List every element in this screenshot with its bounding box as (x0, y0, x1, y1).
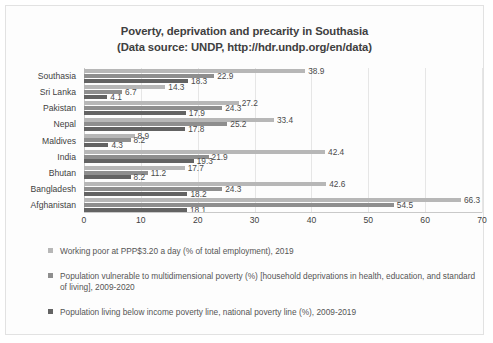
bar-row: 33.4 (84, 118, 482, 122)
bar-group: 14.36.74.1 (84, 84, 482, 100)
bar-row: 27.2 (84, 101, 482, 105)
legend-label: Population living below income poverty l… (60, 307, 356, 317)
bar[interactable] (84, 143, 108, 147)
category-label-india: India (57, 152, 76, 162)
bar[interactable] (84, 192, 187, 196)
bar-row: 24.3 (84, 106, 482, 110)
bar-row: 42.4 (84, 150, 482, 154)
bar-row: 18.2 (84, 192, 482, 196)
x-tick-label: 0 (82, 215, 87, 225)
bar[interactable] (84, 203, 394, 207)
category-label-bhutan: Bhutan (49, 168, 76, 178)
bar-row: 22.9 (84, 74, 482, 78)
bar[interactable] (84, 69, 305, 73)
bar[interactable] (84, 138, 131, 142)
legend-label: Population vulnerable to multidimensiona… (60, 271, 475, 293)
bar-row: 6.7 (84, 90, 482, 94)
bar-row: 8.2 (84, 138, 482, 142)
bar[interactable] (84, 159, 194, 163)
bar-row: 4.3 (84, 143, 482, 147)
bar-group: 42.421.919.3 (84, 149, 482, 165)
bar-groups: 38.922.918.314.36.74.127.224.317.933.425… (84, 68, 482, 213)
bar-row: 4.1 (84, 95, 482, 99)
category-label-afghanistan: Afghanistan (31, 200, 76, 210)
bar[interactable] (84, 134, 135, 138)
x-tick-label: 50 (364, 215, 374, 225)
chart-frame: Poverty, deprivation and precarity in So… (5, 5, 484, 335)
legend-label: Working poor at PPP$3.20 a day (% of tot… (60, 246, 294, 256)
bar-group: 66.354.518.1 (84, 197, 482, 213)
bar-row: 42.6 (84, 182, 482, 186)
chart-title: Poverty, deprivation and precarity in So… (6, 24, 483, 55)
bar-value-label: 18.1 (187, 205, 206, 215)
bar-group: 38.922.918.3 (84, 68, 482, 84)
category-label-bangladesh: Bangladesh (31, 184, 76, 194)
bar[interactable] (84, 166, 185, 170)
bar[interactable] (84, 155, 209, 159)
plot-area: 38.922.918.314.36.74.127.224.317.933.425… (84, 68, 482, 213)
bar-group: 17.711.28.2 (84, 165, 482, 181)
legend-swatch-icon (48, 248, 53, 253)
bar-row: 24.3 (84, 187, 482, 191)
category-label-pakistan: Pakistan (43, 103, 76, 113)
bar-row: 18.3 (84, 79, 482, 83)
legend-item[interactable]: Working poor at PPP$3.20 a day (% of tot… (48, 246, 478, 258)
category-label-southasia: Southasia (38, 71, 76, 81)
bar-row: 38.9 (84, 69, 482, 73)
bar-row: 8.2 (84, 175, 482, 179)
bar[interactable] (84, 182, 326, 186)
legend-item[interactable]: Population living below income poverty l… (48, 307, 478, 319)
bar-group: 42.624.318.2 (84, 181, 482, 197)
x-tick-label: 70 (477, 215, 487, 225)
chart-title-line2: (Data source: UNDP, http://hdr.undp.org/… (6, 40, 483, 56)
x-axis-line (84, 212, 482, 213)
x-tick-label: 20 (193, 215, 203, 225)
bar-row: 25.2 (84, 122, 482, 126)
category-axis: SouthasiaSri LankaPakistanNepalMaldivesI… (6, 68, 80, 213)
bar-row: 17.7 (84, 166, 482, 170)
x-tick-label: 30 (250, 215, 260, 225)
bar[interactable] (84, 111, 186, 115)
bar-row: 21.9 (84, 155, 482, 159)
legend-swatch-icon (48, 309, 53, 314)
x-tick-label: 10 (136, 215, 146, 225)
x-axis-ticks: 010203040506070 (84, 215, 482, 229)
chart-title-line1: Poverty, deprivation and precarity in So… (6, 24, 483, 40)
chart-legend: Working poor at PPP$3.20 a day (% of tot… (48, 246, 478, 331)
gridline-70 (482, 68, 483, 213)
category-label-nepal: Nepal (54, 119, 76, 129)
x-tick-label: 60 (420, 215, 430, 225)
bar-row: 19.3 (84, 159, 482, 163)
bar[interactable] (84, 101, 239, 105)
legend-item[interactable]: Population vulnerable to multidimensiona… (48, 271, 478, 294)
x-tick-label: 40 (307, 215, 317, 225)
bar-row: 54.5 (84, 203, 482, 207)
bar[interactable] (84, 95, 107, 99)
legend-swatch-icon (48, 273, 53, 278)
bar[interactable] (84, 175, 131, 179)
bar-group: 8.98.24.3 (84, 132, 482, 148)
bar-row: 14.3 (84, 85, 482, 89)
bar[interactable] (84, 150, 325, 154)
category-label-sri-lanka: Sri Lanka (40, 87, 76, 97)
bar[interactable] (84, 122, 227, 126)
bar-row: 66.3 (84, 198, 482, 202)
category-label-maldives: Maldives (42, 136, 76, 146)
